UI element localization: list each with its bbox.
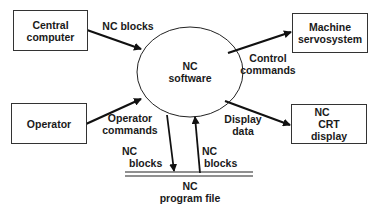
flow-label-operator-commands: Operator commands xyxy=(100,112,160,136)
flow-5-line1: NC xyxy=(202,145,242,157)
machine-servosystem-box: Machine servosystem xyxy=(292,13,368,53)
flow-3-line2: data xyxy=(218,125,268,137)
crt-line1: NC xyxy=(297,106,347,118)
flow-4-line1: NC xyxy=(122,145,168,157)
central-computer-line1: Central xyxy=(27,19,75,31)
arrow-software-to-servo xyxy=(228,32,291,53)
flow-label-nc-blocks-down: NC blocks xyxy=(122,145,168,169)
flow-1-line2: commands xyxy=(238,64,298,76)
nc-crt-display-box: NC CRT display xyxy=(291,104,367,144)
central-computer-box: Central computer xyxy=(13,10,88,51)
arrow-file-to-software xyxy=(195,117,200,173)
flow-label-nc-blocks-up: NC blocks xyxy=(202,145,242,169)
flow-label-nc-blocks-top: NC blocks xyxy=(98,20,158,32)
crt-line2: CRT xyxy=(311,118,347,130)
flow-2-line2: commands xyxy=(100,124,160,136)
nc-software-line2: software xyxy=(160,72,220,84)
flow-1-line1: Control xyxy=(238,52,298,64)
file-line2: program file xyxy=(150,192,230,204)
arrow-software-to-file xyxy=(167,115,174,171)
operator-line1: Operator xyxy=(27,118,71,130)
flow-4-line2: blocks xyxy=(122,157,168,169)
flow-label-display-data: Display data xyxy=(218,113,268,137)
nc-software-line1: NC xyxy=(160,60,220,72)
flow-3-line1: Display xyxy=(218,113,268,125)
nc-software-label: NC software xyxy=(160,60,220,84)
arrow-central-to-software xyxy=(87,30,141,49)
file-line1: NC xyxy=(150,180,230,192)
operator-box: Operator xyxy=(11,103,87,144)
central-computer-line2: computer xyxy=(27,31,75,43)
flow-2-line1: Operator xyxy=(100,112,160,124)
flow-label-control-commands: Control commands xyxy=(238,52,298,76)
servo-line2: servosystem xyxy=(298,33,362,45)
flow-0-line1: NC blocks xyxy=(98,20,158,32)
servo-line1: Machine xyxy=(298,21,362,33)
crt-line3: display xyxy=(311,130,347,142)
nc-program-file-label: NC program file xyxy=(150,180,230,204)
flow-5-line2: blocks xyxy=(202,157,242,169)
